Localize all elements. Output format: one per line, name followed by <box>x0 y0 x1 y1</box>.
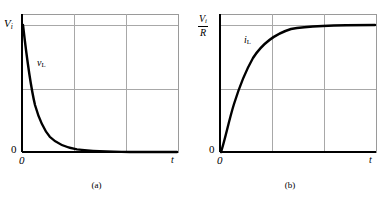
panel-a-x-axis-label: t <box>171 155 174 165</box>
panel-a-x-axis-origin-label: 0 <box>19 155 25 166</box>
panel-b-fraction-denominator: R <box>198 28 208 39</box>
panel-a-y-axis-top-label: Vi <box>4 18 13 30</box>
panel-b-x-axis-label: t <box>369 155 372 165</box>
panel-a-caption: (a) <box>0 180 193 190</box>
figure-rl-transient-curves: Vi 0 0 t vL (a) <box>0 0 387 200</box>
panel-b-plot <box>193 0 387 200</box>
panel-b-fraction-numerator: Vi <box>198 14 208 25</box>
chart-panel-a: Vi 0 0 t vL (a) <box>0 0 193 200</box>
panel-b-caption: (b) <box>193 180 387 190</box>
panel-b-curve-label: iL <box>244 35 251 46</box>
panel-b-y-axis-zero-label: 0 <box>209 144 215 155</box>
chart-panel-b: Vi R 0 0 t iL (b) <box>193 0 387 200</box>
panel-a-y-axis-zero-label: 0 <box>11 144 17 155</box>
panel-a-curve-label: vL <box>37 58 46 69</box>
panel-b-x-axis-origin-label: 0 <box>217 155 223 166</box>
panel-a-plot <box>0 0 193 200</box>
panel-b-y-axis-top-label: Vi R <box>198 14 208 38</box>
